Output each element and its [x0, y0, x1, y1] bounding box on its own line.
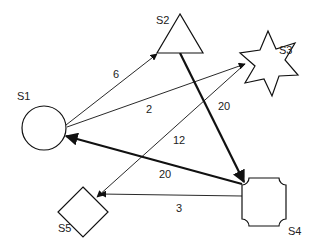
edge-weight-s3-s5: 12	[173, 135, 185, 146]
edge-s4-s5	[100, 194, 242, 196]
node-label-s3: S3	[279, 45, 292, 56]
edge-s1-s3	[67, 64, 245, 127]
edge-weight-s1-s3: 2	[146, 104, 152, 115]
edge-s2-s4	[180, 53, 244, 182]
edge-s1-s2	[66, 54, 157, 125]
edge-weight-s2-s4: 20	[218, 101, 230, 112]
node-label-s4: S4	[288, 226, 301, 237]
node-s3-star[interactable]	[240, 31, 298, 96]
edge-weight-s1-s2: 6	[113, 69, 119, 80]
node-label-s1: S1	[17, 91, 30, 102]
edge-s4-s1	[66, 136, 242, 184]
node-label-s2: S2	[156, 15, 169, 26]
node-s4-concave-square[interactable]	[242, 178, 286, 226]
edge-weight-s4-s1: 20	[159, 169, 171, 180]
node-s1-circle[interactable]	[22, 106, 66, 150]
graph-canvas	[0, 0, 313, 245]
node-label-s5: S5	[58, 223, 71, 234]
edge-weight-s4-s5: 3	[176, 203, 182, 214]
